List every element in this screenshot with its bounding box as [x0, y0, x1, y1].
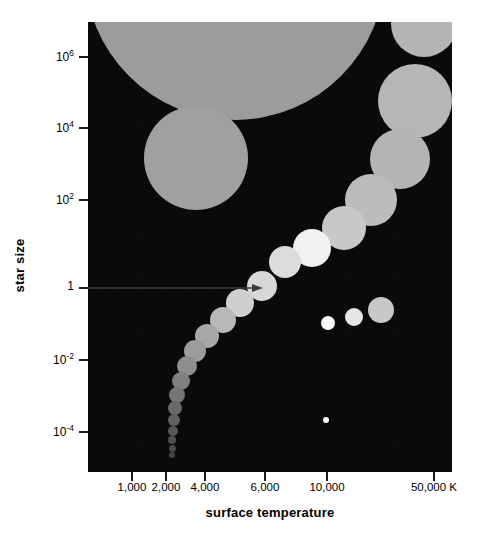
y-tick-mark: [79, 56, 88, 58]
star-blue-supergiant-2: [378, 64, 452, 138]
arrow-icon: [88, 281, 263, 295]
x-tick-label: 2,000: [152, 481, 181, 493]
star-white-dwarf-1: [321, 316, 335, 330]
star-white-dwarf-3: [368, 297, 394, 323]
x-tick-mark: [264, 472, 266, 481]
y-tick-label: 104: [56, 119, 74, 135]
star-supergiant-red: [88, 22, 385, 120]
star-ms-M8: [169, 445, 176, 452]
y-axis-title: star size: [12, 221, 27, 311]
star-ms-A: [269, 246, 301, 278]
x-tick-mark: [433, 472, 435, 481]
x-tick-label: 50,000 K: [411, 481, 457, 493]
star-neutron-star: [323, 417, 329, 423]
y-tick-mark: [79, 431, 88, 433]
y-tick-label: 1: [67, 279, 74, 293]
star-ms-M5: [168, 414, 180, 426]
star-ms-M7: [168, 436, 176, 444]
x-axis-title: surface temperature: [88, 505, 452, 520]
x-tick-label: 4,000: [191, 481, 220, 493]
x-tick-label: 6,000: [251, 481, 280, 493]
x-tick-mark: [165, 472, 167, 481]
x-tick-mark: [204, 472, 206, 481]
y-tick-label: 10-4: [53, 423, 74, 439]
hr-diagram-figure: 106104102110-210-4 1,0002,0004,0006,0001…: [0, 0, 489, 549]
plot-area: [88, 22, 452, 472]
star-ms-M4: [168, 401, 182, 415]
x-tick-label: 1,000: [118, 481, 147, 493]
sun-pointer-arrow: [88, 281, 263, 295]
star-ms-M9: [169, 452, 175, 458]
y-tick-mark: [79, 359, 88, 361]
star-ms-M6: [168, 426, 178, 436]
y-tick-label: 102: [56, 191, 74, 207]
x-tick-mark: [326, 472, 328, 481]
x-tick-mark: [131, 472, 133, 481]
x-tick-label: 10,000: [309, 481, 344, 493]
star-giant-red: [144, 106, 248, 210]
y-tick-mark: [79, 127, 88, 129]
star-white-dwarf-2: [345, 308, 363, 326]
y-tick-mark: [79, 199, 88, 201]
y-tick-mark: [79, 287, 88, 289]
star-blue-supergiant-1: [391, 22, 452, 57]
y-tick-label: 106: [56, 48, 74, 64]
y-tick-label: 10-2: [53, 351, 74, 367]
